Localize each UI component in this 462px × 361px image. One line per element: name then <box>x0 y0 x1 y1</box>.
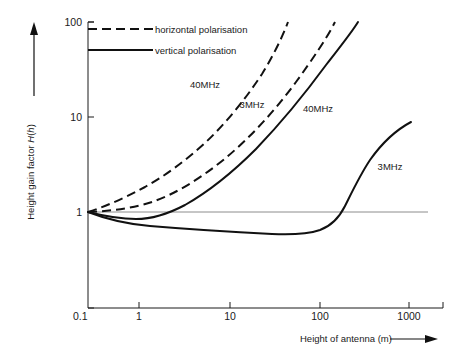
curve-label-40mhz-vertical: 40MHz <box>303 103 333 114</box>
curve-label-3mhz-vertical: 3MHz <box>378 161 403 172</box>
height-gain-factor-chart: 100 10 1 0.1 1 10 100 1000 40MHz 3 <box>0 0 462 361</box>
x-axis-title: Height of antenna (m) <box>300 333 392 344</box>
x-tick-label-10: 10 <box>224 310 236 322</box>
chart-figure: 100 10 1 0.1 1 10 100 1000 40MHz 3 <box>0 0 462 361</box>
y-tick-label-1: 1 <box>76 206 82 218</box>
x-tick-label-1000: 1000 <box>397 310 421 322</box>
x-ticks-group: 1 10 100 1000 <box>136 302 421 322</box>
x-axis-title-group: Height of antenna (m) <box>300 333 438 344</box>
x-tick-label-100: 100 <box>311 310 329 322</box>
x-axis-arrow-head <box>425 335 438 343</box>
y-ticks-group: 100 10 1 0.1 <box>64 16 94 322</box>
curve-label-3mhz-horizontal: 3MHz <box>240 99 265 110</box>
legend: horizontal polarisation vertical polaris… <box>88 24 247 56</box>
y-tick-label-10: 10 <box>70 111 82 123</box>
x-tick-label-1: 1 <box>136 310 142 322</box>
y-axis-title: Height gain factor H(h) <box>25 124 36 220</box>
legend-label-horizontal: horizontal polarisation <box>155 24 247 35</box>
y-tick-label-0.1: 0.1 <box>73 310 88 322</box>
curve-label-40mhz-horizontal: 40MHz <box>190 79 220 90</box>
curve-3mhz-vertical <box>88 122 411 234</box>
y-axis-title-group: Height gain factor H(h) <box>25 22 38 220</box>
y-tick-label-100: 100 <box>64 16 82 28</box>
legend-label-vertical: vertical polarisation <box>155 45 236 56</box>
y-axis-arrow-head <box>30 22 38 35</box>
